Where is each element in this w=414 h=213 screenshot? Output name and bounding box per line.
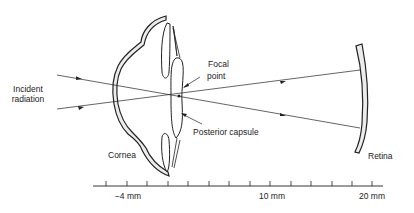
incident-label-1: Incident — [13, 84, 43, 94]
iris-upper — [162, 23, 170, 78]
scale-label-20: 20 mm — [359, 191, 385, 201]
focal-label-2: point — [207, 71, 226, 81]
incident-label-2: radiation — [12, 94, 45, 104]
scale-bar: −4 mm 10 mm 20 mm — [93, 181, 385, 201]
cornea-label: Cornea — [108, 150, 136, 160]
eye-diagram: Incident radiation Focal point Posterior… — [0, 0, 414, 213]
focal-label-1: Focal — [208, 59, 229, 69]
pointer-arrows — [181, 77, 202, 124]
retina-label: Retina — [368, 151, 393, 161]
retina-shape — [355, 44, 368, 153]
scale-label-minus4: −4 mm — [115, 191, 141, 201]
scale-label-10: 10 mm — [259, 191, 285, 201]
posterior-capsule-label: Posterior capsule — [193, 127, 259, 137]
iris-lower — [162, 134, 170, 172]
